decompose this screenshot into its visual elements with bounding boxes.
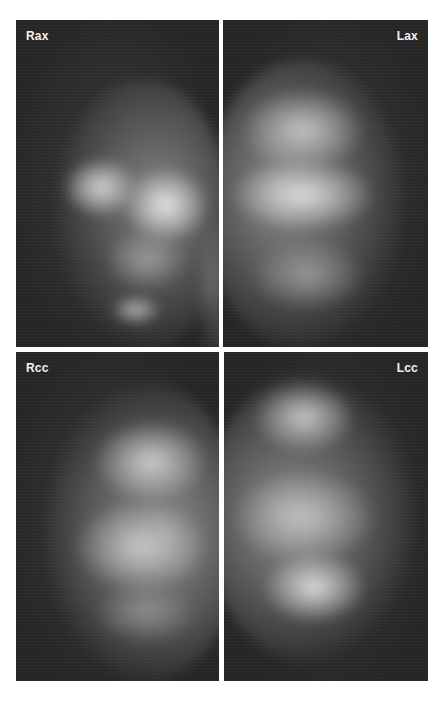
panel-label: Rax [26, 29, 49, 43]
panel-label: Lcc [397, 361, 418, 375]
panel-rax: Rax [16, 20, 219, 347]
panel-lcc: Lcc [224, 352, 428, 681]
panel-rcc: Rcc [16, 352, 219, 681]
panel-label: Lax [397, 29, 418, 43]
panel-lax: Lax [223, 20, 428, 347]
panel-label: Rcc [26, 361, 49, 375]
